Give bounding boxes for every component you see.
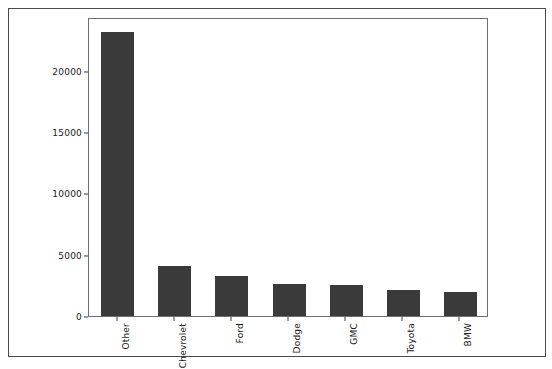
bar bbox=[387, 290, 420, 316]
x-axis-tick-mark bbox=[230, 317, 231, 321]
x-axis-tick-mark bbox=[345, 317, 346, 321]
y-axis-tick-mark bbox=[84, 317, 88, 318]
bar bbox=[158, 266, 191, 316]
x-axis-tick-mark bbox=[288, 317, 289, 321]
bar bbox=[101, 32, 134, 316]
x-axis-tick-label: Chevrolet bbox=[178, 323, 188, 368]
y-axis-tick-label: 0 bbox=[76, 312, 82, 322]
bar bbox=[444, 292, 477, 316]
y-axis-tick-label: 10000 bbox=[52, 189, 82, 199]
bar bbox=[215, 276, 248, 316]
x-axis-tick-label: Dodge bbox=[292, 323, 302, 353]
bars-layer bbox=[89, 19, 487, 316]
x-axis-tick-mark bbox=[116, 317, 117, 321]
y-axis-tick-mark bbox=[84, 194, 88, 195]
plot-area bbox=[88, 18, 488, 317]
x-axis-tick-label: GMC bbox=[349, 323, 359, 345]
y-axis-tick-labels: 05000100001500020000 bbox=[28, 18, 82, 317]
x-axis-tick-mark bbox=[459, 317, 460, 321]
y-axis-tick-mark bbox=[84, 133, 88, 134]
chart-screenshot: 05000100001500020000 OtherChevroletFordD… bbox=[0, 0, 552, 369]
y-axis-tick-label: 5000 bbox=[58, 251, 82, 261]
y-axis-tick-mark bbox=[84, 71, 88, 72]
x-axis-tick-mark bbox=[173, 317, 174, 321]
x-axis-tick-label: Toyota bbox=[406, 323, 416, 354]
bar bbox=[273, 284, 306, 316]
x-axis-tick-label: BMW bbox=[463, 323, 473, 346]
y-axis-tick-mark bbox=[84, 255, 88, 256]
y-axis-tick-label: 20000 bbox=[52, 67, 82, 77]
y-axis-tick-label: 15000 bbox=[52, 128, 82, 138]
x-axis-tick-label: Other bbox=[121, 323, 131, 350]
x-axis-tick-label: Ford bbox=[235, 323, 245, 343]
bar bbox=[330, 285, 363, 316]
x-axis-tick-mark bbox=[402, 317, 403, 321]
